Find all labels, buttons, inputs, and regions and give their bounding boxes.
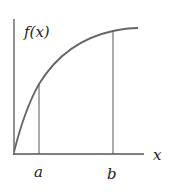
function-curve [14, 28, 138, 152]
marker-label-b: b [107, 165, 117, 183]
y-axis-label: f(x) [23, 23, 50, 41]
x-axis-label: x [153, 146, 162, 164]
function-diagram: f(x) x a b [0, 0, 171, 193]
marker-label-a: a [34, 163, 43, 181]
